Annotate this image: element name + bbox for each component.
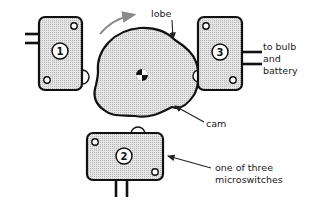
cam: [95, 28, 199, 117]
switch-3-number: 3: [217, 47, 224, 58]
switch-2-number: 2: [121, 151, 128, 162]
switch-1-number: 1: [57, 46, 64, 57]
microswitch-label-line2: microswitches: [215, 174, 283, 185]
to-bulb-label-line1: to bulb: [263, 41, 296, 52]
cam-hub-icon: [136, 69, 148, 81]
switch-2-mounting-hole-left: [92, 139, 98, 145]
to-bulb-label-line3: battery: [263, 65, 298, 76]
cam-leader-arrow: [175, 106, 204, 122]
microswitch-2: 2: [87, 127, 163, 197]
microswitch-3: 3: [193, 17, 262, 90]
switch-3-mounting-hole-bottom: [230, 77, 236, 83]
lobe-label: lobe: [151, 8, 171, 19]
to-bulb-label-line2: and: [263, 53, 281, 64]
switch-1-mounting-hole-top: [71, 23, 77, 29]
switch-2-mounting-hole-right: [152, 169, 158, 175]
switch-1-mounting-hole-bottom: [44, 77, 50, 83]
microswitch-leader-arrow: [168, 156, 211, 168]
cam-label: cam: [206, 118, 226, 129]
switch-3-mounting-hole-top: [203, 23, 209, 29]
cam-microswitch-diagram: 1 3 2 lobe cam to bulb and batt: [0, 0, 313, 206]
microswitch-1: 1: [25, 17, 89, 90]
microswitch-label-line1: one of three: [215, 162, 273, 173]
